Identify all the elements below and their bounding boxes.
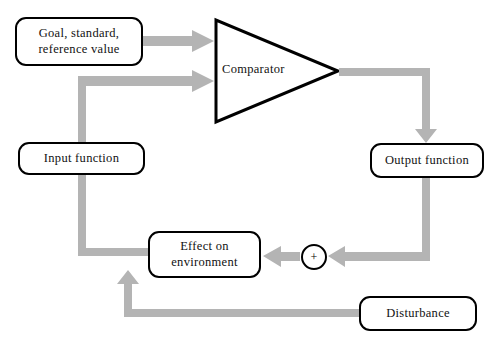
arrow-comparator-to-output-horizontal — [339, 68, 430, 76]
arrow-output-to-sum-vertical — [422, 178, 430, 252]
arrow-goal-to-comparator — [143, 30, 214, 52]
summing-junction[interactable]: + — [301, 244, 327, 270]
node-disturbance-label: Disturbance — [386, 306, 450, 322]
comparator-label-text: Comparator — [222, 62, 317, 77]
node-goal-label: Goal, standard, reference value — [38, 26, 119, 57]
arrow-disturbance-horizontal — [124, 309, 359, 317]
arrow-sum-to-effect — [263, 246, 300, 267]
arrow-comparator-to-output-vertical — [415, 68, 437, 143]
node-output-function[interactable]: Output function — [370, 143, 484, 178]
summing-junction-label: + — [311, 250, 318, 265]
node-effect-on-environment-label: Effect on environment — [171, 239, 237, 270]
arrow-effect-to-feedback — [78, 248, 148, 256]
arrow-output-to-sum-horizontal — [328, 246, 430, 267]
node-disturbance[interactable]: Disturbance — [359, 296, 477, 331]
node-input-function-label: Input function — [44, 151, 119, 167]
node-input-function[interactable]: Input function — [18, 142, 145, 175]
node-effect-on-environment[interactable]: Effect on environment — [148, 231, 261, 278]
arrow-comparator-to-output-corner — [339, 68, 430, 128]
node-goal-standard-reference-value[interactable]: Goal, standard, reference value — [15, 17, 143, 66]
control-loop-diagram: Goal, standard, reference value Input fu… — [0, 0, 496, 343]
node-output-function-label: Output function — [385, 153, 469, 169]
node-comparator-label: Comparator — [222, 62, 285, 76]
